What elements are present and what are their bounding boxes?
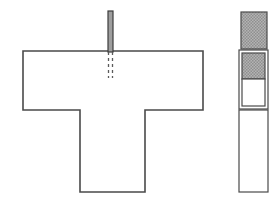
left-assembly-group [23, 11, 203, 192]
segment-bottom-white [239, 110, 268, 192]
drawing-canvas [0, 0, 280, 205]
technical-drawing-svg [0, 0, 280, 205]
segment-inner-white [242, 79, 265, 106]
segment-inner-hatched [242, 53, 265, 79]
right-assembly-group [239, 12, 268, 192]
vertical-post [108, 11, 113, 52]
segment-top-hatched [241, 12, 267, 49]
